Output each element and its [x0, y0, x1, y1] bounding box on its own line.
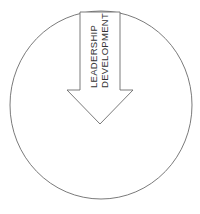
arrow-label-line2: DEVELOPMENT — [99, 13, 110, 88]
arrow-label-line1: LEADERSHIP — [88, 25, 99, 88]
diagram-canvas: LEADERSHIP DEVELOPMENT — [0, 0, 200, 214]
diagram-svg: LEADERSHIP DEVELOPMENT — [0, 0, 200, 214]
